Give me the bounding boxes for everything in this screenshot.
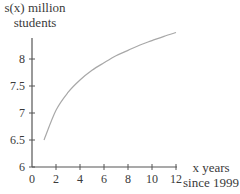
x-tick-label: 8 — [125, 172, 131, 186]
y-tick-label: 7 — [19, 106, 25, 120]
chart-plot: 02468101266.577.58 — [0, 0, 240, 194]
x-tick-label: 4 — [77, 172, 83, 186]
y-tick-label: 7.5 — [10, 79, 25, 93]
x-tick-label: 12 — [170, 172, 182, 186]
x-tick-label: 6 — [101, 172, 107, 186]
y-tick-label: 6.5 — [10, 133, 25, 147]
y-tick-label: 6 — [19, 160, 25, 174]
x-tick-label: 2 — [53, 172, 59, 186]
data-curve — [44, 33, 176, 140]
y-tick-label: 8 — [19, 52, 25, 66]
x-tick-label: 10 — [146, 172, 158, 186]
axes — [32, 38, 177, 167]
ticks: 02468101266.577.58 — [10, 52, 182, 186]
x-tick-label: 0 — [29, 172, 35, 186]
